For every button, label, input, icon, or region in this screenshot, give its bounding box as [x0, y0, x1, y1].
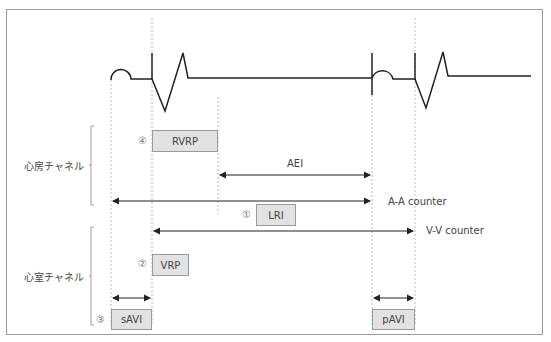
lri-number: ① — [242, 209, 251, 220]
vrp-number: ② — [138, 258, 147, 269]
dashed-guides — [111, 18, 415, 325]
lri-box: LRI — [256, 204, 296, 226]
savi-number: ③ — [96, 314, 105, 325]
atrial-channel-label: 心房チャネル — [24, 158, 84, 173]
rvrp-box: RVRP — [152, 130, 218, 152]
rvrp-number: ④ — [138, 135, 147, 146]
ecg-waveform — [111, 52, 531, 111]
aei-label: AEI — [287, 158, 303, 169]
channel-brackets — [89, 126, 94, 325]
aa-counter-label: A-A counter — [388, 196, 447, 207]
ventricular-channel-label: 心室チャネル — [24, 269, 84, 284]
pavi-box: pAVI — [372, 309, 415, 330]
savi-box: sAVI — [111, 309, 152, 330]
vrp-box: VRP — [152, 254, 189, 276]
vv-counter-label: V-V counter — [426, 225, 484, 236]
interval-arrows — [113, 175, 413, 298]
